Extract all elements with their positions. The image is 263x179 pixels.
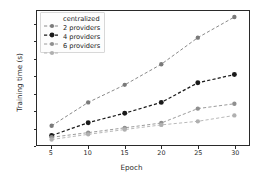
data-point-marker	[232, 102, 236, 106]
legend-item-2-providers[interactable]: 2 providers	[44, 24, 100, 32]
x-tick-mark	[198, 146, 199, 149]
data-point-marker	[232, 113, 236, 117]
x-tick-label: 5	[49, 150, 53, 156]
data-point-marker	[159, 62, 163, 66]
series-line	[52, 75, 235, 136]
x-tick-label: 10	[84, 150, 92, 156]
x-tick-label: 25	[194, 150, 202, 156]
data-point-marker	[196, 119, 200, 123]
legend-label: 6 providers	[63, 43, 100, 50]
chart-legend: centralized2 providers4 providers6 provi…	[40, 12, 105, 53]
data-point-marker	[49, 124, 53, 128]
series-4-providers	[49, 102, 236, 140]
legend-marker-icon	[44, 33, 60, 41]
figure-container: Training time (s) 0100200300400500600700…	[0, 0, 263, 179]
data-point-marker	[122, 111, 127, 116]
data-point-marker	[159, 123, 163, 127]
x-axis-label: Epoch	[0, 163, 263, 172]
legend-item-centralized[interactable]: centralized	[44, 15, 100, 23]
data-point-marker	[49, 137, 53, 141]
data-point-marker	[232, 15, 236, 19]
x-tick-mark	[51, 146, 52, 149]
data-point-marker	[86, 132, 90, 136]
legend-marker-icon	[44, 42, 60, 50]
series-2-providers	[49, 72, 237, 138]
data-point-marker	[159, 100, 164, 105]
legend-marker-icon	[44, 24, 60, 32]
series-6-providers	[49, 113, 236, 141]
legend-label: centralized	[63, 16, 100, 23]
legend-marker-icon	[44, 15, 60, 23]
series-line	[52, 104, 235, 138]
data-point-marker	[123, 127, 127, 131]
x-tick-label: 15	[120, 150, 128, 156]
data-point-marker	[123, 83, 127, 87]
data-point-marker	[232, 72, 237, 77]
x-tick-mark	[88, 146, 89, 149]
series-line	[52, 115, 235, 139]
y-tick-mark	[34, 146, 37, 147]
x-tick-mark	[161, 146, 162, 149]
legend-label: 2 providers	[63, 25, 100, 32]
legend-item-4-providers[interactable]: 4 providers	[44, 33, 100, 41]
y-axis-label: Training time (s)	[15, 33, 24, 133]
data-point-marker	[196, 35, 200, 39]
legend-label: 4 providers	[63, 34, 100, 41]
legend-item-6-providers[interactable]: 6 providers	[44, 42, 100, 50]
x-tick-label: 20	[157, 150, 165, 156]
x-tick-label: 30	[231, 150, 239, 156]
data-point-marker	[86, 120, 91, 125]
x-tick-mark	[125, 146, 126, 149]
data-point-marker	[196, 106, 200, 110]
data-point-marker	[86, 100, 90, 104]
data-point-marker	[195, 80, 200, 85]
x-tick-mark	[235, 146, 236, 149]
